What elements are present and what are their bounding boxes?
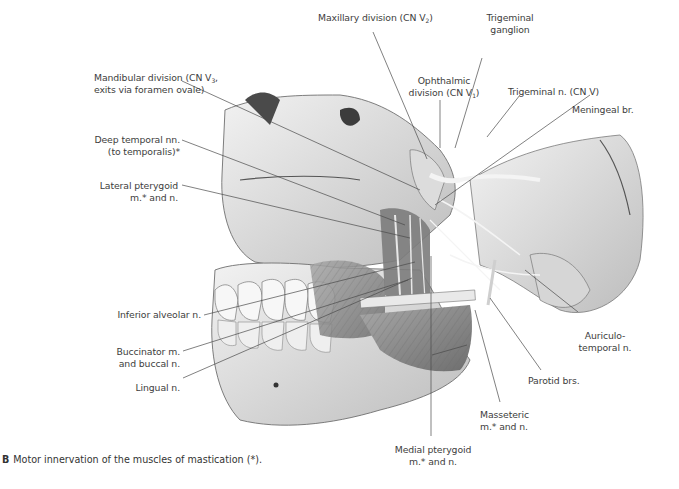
label-text: Lingual n. xyxy=(80,382,180,394)
anatomy-figure: Mandibular division (CN V3, exits via fo… xyxy=(0,0,679,489)
caption-text: Motor innervation of the muscles of mast… xyxy=(13,454,262,465)
label-text: ) xyxy=(476,87,480,98)
label-masseteric: Masseteric m.* and n. xyxy=(480,409,529,433)
caption-letter: B xyxy=(2,454,9,465)
label-text: ganglion xyxy=(475,24,545,36)
label-parotid-branches: Parotid brs. xyxy=(528,375,580,387)
label-text: Trigeminal xyxy=(475,12,545,24)
label-trigeminal-nerve: Trigeminal n. (CN V) xyxy=(508,86,599,98)
label-text: temporal n. xyxy=(565,342,645,354)
label-text: Deep temporal nn. xyxy=(80,134,180,146)
label-deep-temporal-nerves: Deep temporal nn. (to temporalis)* xyxy=(80,134,180,158)
label-maxillary-division: Maxillary division (CN V2) xyxy=(318,12,433,24)
label-lingual-nerve: Lingual n. xyxy=(80,382,180,394)
label-text: (to temporalis)* xyxy=(80,146,180,158)
label-mandibular-division: Mandibular division (CN V3, exits via fo… xyxy=(94,72,204,96)
label-text: Lateral pterygoid xyxy=(80,180,178,192)
label-text: ) xyxy=(429,12,433,23)
label-text: Meningeal br. xyxy=(572,104,634,116)
label-text: Inferior alveolar n. xyxy=(80,309,201,321)
label-buccinator: Buccinator m. and buccal n. xyxy=(80,346,180,370)
label-text: and buccal n. xyxy=(80,358,180,370)
label-trigeminal-ganglion: Trigeminal ganglion xyxy=(475,12,545,36)
label-text: Auriculo- xyxy=(565,330,645,342)
label-meningeal-branch: Meningeal br. xyxy=(572,104,634,116)
label-text: Masseteric xyxy=(480,409,529,421)
label-text: Medial pterygoid xyxy=(388,444,478,456)
label-text: exits via foramen ovale) xyxy=(94,84,204,96)
label-ophthalmic-division: Ophthalmic division (CN V1) xyxy=(404,75,484,99)
label-text: Buccinator m. xyxy=(80,346,180,358)
label-text: division (CN V xyxy=(409,87,473,98)
label-medial-pterygoid: Medial pterygoid m.* and n. xyxy=(388,444,478,468)
label-text: m.* and n. xyxy=(480,421,529,433)
label-text: Mandibular division (CN V xyxy=(94,72,211,83)
label-text: , xyxy=(215,72,218,83)
label-text: Trigeminal n. (CN V) xyxy=(508,86,599,98)
label-inferior-alveolar-nerve: Inferior alveolar n. xyxy=(80,309,201,321)
figure-caption: BMotor innervation of the muscles of mas… xyxy=(2,454,262,465)
label-text: m.* and n. xyxy=(388,456,478,468)
label-text: Parotid brs. xyxy=(528,375,580,387)
label-text: Maxillary division (CN V xyxy=(318,12,425,23)
label-text: m.* and n. xyxy=(80,192,178,204)
label-text: Ophthalmic xyxy=(404,75,484,87)
label-auriculotemporal-nerve: Auriculo- temporal n. xyxy=(565,330,645,354)
label-lateral-pterygoid: Lateral pterygoid m.* and n. xyxy=(80,180,178,204)
